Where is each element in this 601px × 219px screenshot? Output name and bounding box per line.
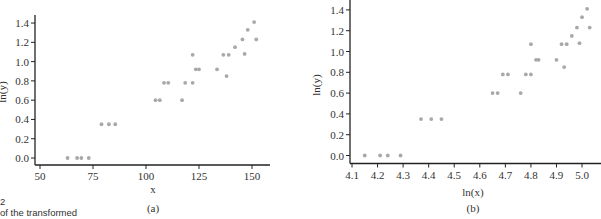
data-point: [501, 72, 505, 76]
y-tick-label: 1.4: [330, 4, 344, 16]
data-point: [113, 122, 117, 126]
data-point: [578, 41, 582, 45]
data-point: [191, 53, 195, 57]
x-tick-label: 4.3: [396, 169, 410, 181]
plot-a-points: [66, 20, 258, 160]
y-tick-label: 0.8: [330, 66, 344, 78]
cropped-caption-text: of the transformed: [0, 207, 77, 218]
data-point: [100, 122, 104, 126]
x-tick-label: 5.0: [575, 169, 589, 181]
y-tick-label: 0.0: [330, 150, 344, 162]
cropped-caption-number: 2: [0, 196, 5, 207]
y-tick-label: 0.6: [15, 94, 29, 106]
data-point: [534, 58, 538, 62]
data-point: [529, 42, 533, 46]
data-point: [585, 7, 589, 11]
data-point: [570, 34, 574, 38]
x-tick-label: 4.6: [473, 169, 487, 181]
data-point: [107, 122, 111, 126]
plot-a-xaxis: 5075100125150: [35, 165, 271, 182]
data-point: [154, 98, 158, 102]
y-tick-label: 1.2: [330, 25, 344, 37]
x-tick-label: 4.9: [550, 169, 564, 181]
y-tick-label: 0.4: [15, 113, 29, 125]
data-point: [166, 81, 170, 85]
data-point: [491, 91, 495, 95]
data-point: [580, 15, 584, 19]
x-tick-label: 4.1: [345, 169, 359, 181]
data-point: [158, 98, 162, 102]
data-point: [560, 42, 564, 46]
data-point: [378, 154, 382, 158]
data-point: [241, 38, 245, 42]
plot-b-points: [363, 7, 592, 157]
plot-a-xlabel: x: [150, 183, 156, 195]
data-point: [162, 81, 166, 85]
y-tick-label: 1.0: [330, 46, 344, 58]
plot-a-panel-label: (a): [147, 202, 160, 215]
data-point: [87, 156, 91, 160]
plot-b-xlabel: ln(x): [462, 186, 484, 199]
plot-a-yaxis: 0.00.20.40.60.81.01.21.4: [15, 15, 35, 165]
x-tick-label: 4.5: [447, 169, 461, 181]
data-point: [440, 117, 444, 121]
y-tick-label: 1.0: [15, 56, 29, 68]
data-point: [506, 72, 510, 76]
data-point: [180, 98, 184, 102]
data-point: [429, 117, 433, 121]
data-point: [243, 52, 247, 56]
data-point: [496, 91, 500, 95]
x-tick-label: 150: [244, 170, 261, 182]
x-tick-label: 75: [88, 170, 100, 182]
y-tick-label: 0.2: [330, 129, 344, 141]
plot-b-yaxis: 0.00.20.40.60.81.01.21.4: [330, 0, 350, 164]
x-tick-label: 50: [35, 170, 47, 182]
data-point: [588, 26, 592, 30]
data-point: [221, 53, 225, 57]
plot-a-ylabel: ln(y): [0, 81, 9, 103]
data-point: [233, 45, 237, 49]
data-point: [246, 28, 250, 32]
data-point: [75, 156, 79, 160]
data-point: [252, 20, 256, 24]
y-tick-label: 1.2: [15, 36, 29, 48]
data-point: [399, 154, 403, 158]
data-point: [225, 74, 229, 78]
y-tick-label: 1.4: [15, 17, 29, 29]
data-point: [227, 53, 231, 57]
y-tick-label: 0.2: [15, 133, 29, 145]
x-tick-label: 100: [138, 170, 155, 182]
data-point: [79, 156, 83, 160]
data-point: [66, 156, 70, 160]
data-point: [183, 81, 187, 85]
data-point: [562, 65, 566, 69]
data-point: [386, 154, 390, 158]
data-point: [565, 42, 569, 46]
data-point: [537, 58, 541, 62]
plot-b-ylabel: ln(y): [310, 74, 323, 96]
plot-b-panel-label: (b): [467, 202, 480, 215]
data-point: [529, 72, 533, 76]
scatter-plot-a: 0.00.20.40.60.81.01.21.4 5075100125150 x…: [0, 0, 300, 219]
y-tick-label: 0.6: [330, 87, 344, 99]
data-point: [254, 38, 258, 42]
data-point: [524, 72, 528, 76]
data-point: [215, 67, 219, 71]
x-tick-label: 4.2: [371, 169, 385, 181]
x-tick-label: 4.7: [498, 169, 512, 181]
x-tick-label: 4.4: [422, 169, 436, 181]
y-tick-label: 0.8: [15, 75, 29, 87]
data-point: [197, 67, 201, 71]
data-point: [191, 81, 195, 85]
data-point: [555, 58, 559, 62]
data-point: [419, 117, 423, 121]
plot-b-xaxis: 4.14.24.34.44.54.64.74.84.95.0: [345, 164, 601, 181]
x-tick-label: 4.8: [524, 169, 538, 181]
y-tick-label: 0.0: [15, 152, 29, 164]
data-point: [575, 26, 579, 30]
data-point: [363, 154, 367, 158]
data-point: [519, 91, 523, 95]
x-tick-label: 125: [191, 170, 208, 182]
y-tick-label: 0.4: [330, 108, 344, 120]
